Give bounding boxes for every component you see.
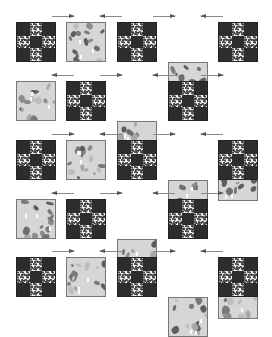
print-highlight [79, 151, 81, 155]
nine-patch-block [117, 22, 157, 62]
print-highlight [48, 105, 50, 109]
pressing-arrow-left-icon [100, 249, 122, 254]
dark-square [92, 107, 105, 120]
dark-square [219, 283, 232, 296]
dark-square [143, 23, 156, 36]
print-highlight [80, 55, 82, 59]
dark-square [118, 283, 131, 296]
dark-square [143, 48, 156, 61]
light-speckled-square [80, 225, 93, 238]
dark-square [169, 107, 182, 120]
arrow-head [152, 73, 158, 77]
print-fabric-block [66, 257, 106, 297]
dark-square [118, 23, 131, 36]
print-highlight [200, 319, 202, 323]
dark-square [182, 95, 195, 108]
light-speckled-square [232, 258, 245, 271]
print-motif [76, 31, 82, 37]
print-motif [20, 108, 24, 111]
dark-square [118, 141, 131, 154]
print-motif [67, 161, 73, 166]
pressing-arrow-right-icon [201, 191, 223, 196]
dark-square [30, 36, 43, 49]
arrow-head [200, 14, 206, 18]
light-speckled-square [118, 271, 131, 284]
print-motif [87, 144, 94, 151]
light-speckled-square [194, 213, 207, 226]
dark-square [17, 166, 30, 179]
print-motif [199, 304, 208, 313]
print-motif [52, 100, 56, 105]
light-speckled-square [143, 36, 156, 49]
nine-patch-block [16, 257, 56, 297]
print-motif [170, 325, 181, 335]
print-motif [46, 83, 52, 91]
arrow-head [200, 249, 206, 253]
light-speckled-square [169, 213, 182, 226]
pressing-arrow-left-icon [52, 73, 74, 78]
print-motif [46, 201, 54, 205]
light-speckled-square [219, 271, 232, 284]
dark-square [80, 95, 93, 108]
arrow-head [152, 191, 158, 195]
print-highlight [195, 331, 197, 335]
light-speckled-square [194, 95, 207, 108]
print-motif [203, 313, 208, 319]
dark-square [131, 36, 144, 49]
dark-square [143, 283, 156, 296]
dark-square [67, 82, 80, 95]
light-speckled-square [131, 283, 144, 296]
light-speckled-square [169, 95, 182, 108]
light-speckled-square [244, 36, 257, 49]
dark-square [42, 283, 55, 296]
nine-patch-block [168, 81, 208, 121]
pressing-arrow-right-icon [153, 132, 175, 137]
light-speckled-square [182, 107, 195, 120]
print-motif [39, 225, 44, 229]
arrow-head [200, 132, 206, 136]
light-speckled-square [182, 225, 195, 238]
arrow-head [218, 73, 224, 77]
print-motif [71, 264, 74, 267]
light-speckled-square [219, 154, 232, 167]
light-speckled-square [42, 36, 55, 49]
pressing-arrow-left-icon [100, 132, 122, 137]
light-speckled-square [30, 23, 43, 36]
dark-square [42, 141, 55, 154]
dark-square [182, 213, 195, 226]
light-speckled-square [131, 166, 144, 179]
print-motif [238, 313, 246, 319]
print-highlight [30, 97, 32, 101]
light-speckled-square [131, 258, 144, 271]
quilt-row-3 [0, 132, 272, 192]
nine-patch-block [66, 199, 106, 239]
pressing-arrow-right-icon [52, 249, 74, 254]
light-speckled-square [232, 166, 245, 179]
print-motif [42, 98, 48, 104]
light-speckled-square [92, 213, 105, 226]
print-motif [189, 304, 195, 310]
light-speckled-square [42, 154, 55, 167]
print-highlight [77, 151, 79, 155]
print-motif [197, 331, 200, 335]
light-speckled-square [182, 200, 195, 213]
print-highlight [31, 92, 33, 96]
arrow-head [51, 191, 57, 195]
light-speckled-square [17, 154, 30, 167]
print-motif [68, 168, 76, 175]
print-motif [96, 266, 100, 270]
dark-square [232, 271, 245, 284]
light-speckled-square [30, 48, 43, 61]
nine-patch-block [218, 140, 258, 180]
pressing-arrow-right-icon [52, 132, 74, 137]
print-motif [21, 200, 29, 204]
dark-square [30, 271, 43, 284]
pressing-arrow-right-icon [153, 14, 175, 19]
nine-patch-block [168, 199, 208, 239]
dark-square [118, 166, 131, 179]
pressing-arrow-left-icon [201, 14, 223, 19]
light-speckled-square [232, 48, 245, 61]
dark-square [92, 200, 105, 213]
dark-square [30, 154, 43, 167]
print-motif [175, 299, 179, 303]
